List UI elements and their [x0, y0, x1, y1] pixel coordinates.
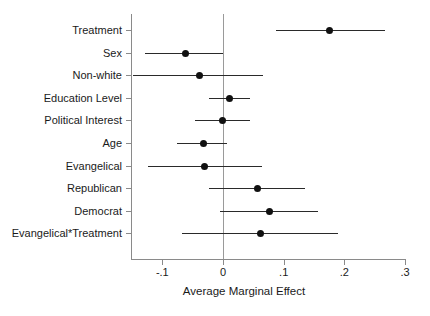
y-axis-tick — [126, 143, 131, 144]
y-axis-tick — [126, 30, 131, 31]
x-axis-title-text: Average Marginal Effect — [183, 285, 305, 297]
estimate-point — [254, 185, 261, 192]
y-axis-label: Republican — [67, 182, 122, 194]
coefficient-plot: TreatmentSexNon-whiteEducation LevelPoli… — [0, 0, 430, 316]
y-axis-tick — [126, 211, 131, 212]
estimate-point — [200, 140, 207, 147]
x-axis-tick — [162, 260, 163, 265]
y-axis-label: Evangelical*Treatment — [12, 227, 122, 239]
zero-reference-line — [223, 14, 224, 259]
x-axis-tick — [223, 260, 224, 265]
y-axis-label: Non-white — [72, 69, 122, 81]
y-axis-tick — [126, 166, 131, 167]
y-axis-label: Political Interest — [44, 114, 122, 126]
estimate-point — [266, 208, 273, 215]
y-axis-label: Education Level — [44, 92, 122, 104]
y-axis-label: Evangelical — [66, 160, 122, 172]
estimate-point — [201, 163, 208, 170]
y-axis-label: Age — [102, 137, 122, 149]
y-axis-label: Democrat — [74, 205, 122, 217]
y-axis-tick — [126, 120, 131, 121]
x-axis-tick-label: .3 — [385, 266, 425, 278]
y-axis-label: Treatment — [72, 24, 122, 36]
estimate-point — [257, 230, 264, 237]
x-axis-tick — [344, 260, 345, 265]
x-axis-tick-label: -.1 — [142, 266, 182, 278]
x-axis-spine — [131, 259, 406, 260]
y-axis-label: Sex — [103, 47, 122, 59]
x-axis-tick — [284, 260, 285, 265]
x-axis-tick — [405, 260, 406, 265]
y-axis-tick — [126, 53, 131, 54]
estimate-point — [219, 117, 226, 124]
x-axis-tick-label: .2 — [324, 266, 364, 278]
x-axis-title: Average Marginal Effect — [0, 285, 430, 297]
estimate-point — [196, 72, 203, 79]
x-axis-tick-label: .1 — [264, 266, 304, 278]
y-axis-tick — [126, 233, 131, 234]
estimate-point — [182, 50, 189, 57]
y-axis-tick — [126, 75, 131, 76]
estimate-point — [326, 27, 333, 34]
y-axis-tick — [126, 188, 131, 189]
x-axis-tick-label: 0 — [203, 266, 243, 278]
estimate-point — [226, 95, 233, 102]
y-axis-spine — [131, 14, 132, 259]
y-axis-tick — [126, 98, 131, 99]
